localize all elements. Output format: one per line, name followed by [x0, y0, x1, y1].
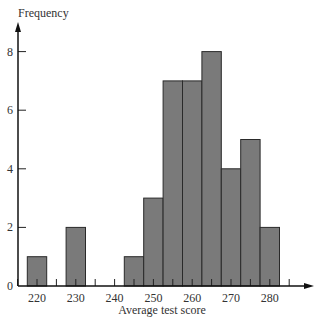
x-tick-label: 230 — [67, 291, 85, 305]
x-tick-label: 220 — [28, 291, 46, 305]
histogram-bar — [202, 52, 221, 286]
y-axis-label: Frequency — [18, 6, 69, 20]
histogram-bar — [241, 140, 260, 287]
histogram-bar — [66, 227, 85, 286]
histogram-bar — [144, 198, 163, 286]
x-tick-label: 270 — [222, 291, 240, 305]
y-tick-label: 6 — [7, 103, 13, 117]
y-tick-label: 2 — [7, 220, 13, 234]
x-tick-label: 280 — [261, 291, 279, 305]
histogram-bar — [183, 81, 202, 286]
histogram-bar — [163, 81, 182, 286]
x-axis-label: Average test score — [118, 303, 206, 317]
histogram-bar — [260, 227, 279, 286]
histogram-bar — [221, 169, 240, 286]
x-axis-arrow-icon — [304, 283, 314, 289]
y-axis-arrow-icon — [15, 22, 21, 32]
histogram-bars — [27, 52, 279, 286]
y-tick-label: 0 — [7, 279, 13, 293]
y-tick-label: 4 — [7, 162, 13, 176]
y-tick-label: 8 — [7, 45, 13, 59]
histogram-chart: 220230240250260270280 02468 Frequency Av… — [0, 0, 316, 318]
y-axis-ticks: 02468 — [7, 45, 26, 293]
